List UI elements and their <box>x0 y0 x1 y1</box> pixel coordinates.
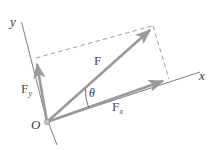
vector-Fx-label: Fx <box>112 100 123 113</box>
origin-label: O <box>31 118 40 131</box>
x-axis-label: x <box>199 69 205 82</box>
vector-Fy <box>37 64 47 122</box>
axis-group <box>22 22 201 145</box>
angle-theta-label: θ <box>89 87 95 99</box>
vector-diagram: y x O F Fx Fy θ <box>0 0 213 150</box>
origin-point <box>45 120 50 125</box>
vector-Fx <box>47 81 163 122</box>
y-axis-label: y <box>10 15 16 28</box>
vector-group <box>37 30 163 122</box>
vector-Fx-label-sub: x <box>119 107 123 116</box>
dashed-parallel-to-y <box>153 26 169 79</box>
vector-F <box>47 30 150 122</box>
negative-y-axis-stub <box>49 124 57 145</box>
vector-F-label: F <box>94 54 101 67</box>
vector-Fy-label: Fy <box>21 82 32 95</box>
vector-Fy-label-sub: y <box>28 89 32 98</box>
